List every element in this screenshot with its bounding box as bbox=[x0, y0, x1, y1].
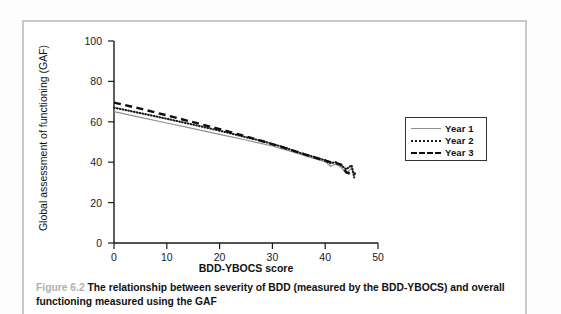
series-line-year-3 bbox=[114, 103, 356, 175]
y-tick-label-60: 60 bbox=[76, 116, 102, 128]
x-axis-label: BDD-YBOCS score bbox=[114, 262, 378, 274]
y-tick-label-0: 0 bbox=[76, 237, 102, 249]
legend-label-year-2: Year 2 bbox=[445, 135, 474, 146]
legend-item-year-3: Year 3 bbox=[411, 146, 481, 158]
y-tick-label-80: 80 bbox=[76, 75, 102, 87]
y-tick-label-20: 20 bbox=[76, 197, 102, 209]
legend-swatch-solid-icon bbox=[411, 123, 441, 133]
legend-label-year-1: Year 1 bbox=[445, 123, 474, 134]
figure-caption: Figure 6.2 The relationship between seve… bbox=[36, 281, 536, 308]
legend-swatch-dashed-icon bbox=[411, 147, 441, 157]
legend-label-year-3: Year 3 bbox=[445, 147, 474, 158]
legend-item-year-1: Year 1 bbox=[411, 122, 481, 134]
y-axis-label: Global assessment of functioning (GAF) bbox=[37, 43, 49, 233]
figure-caption-number: Figure 6.2 bbox=[36, 282, 85, 293]
legend-swatch-dotted-icon bbox=[411, 135, 441, 145]
y-tick-label-100: 100 bbox=[76, 35, 102, 47]
series-line-year-2 bbox=[114, 108, 354, 178]
legend-item-year-2: Year 2 bbox=[411, 134, 481, 146]
chart-legend: Year 1 Year 2 Year 3 bbox=[405, 117, 487, 161]
figure-container: 0 20 40 60 80 100 0 10 20 30 40 50 Globa… bbox=[0, 0, 561, 314]
y-tick-label-40: 40 bbox=[76, 156, 102, 168]
figure-caption-text: The relationship between severity of BDD… bbox=[36, 282, 505, 307]
series-line-year-1 bbox=[114, 112, 354, 176]
chart-plot-area: 0 20 40 60 80 100 0 10 20 30 40 50 Globa… bbox=[0, 0, 561, 270]
